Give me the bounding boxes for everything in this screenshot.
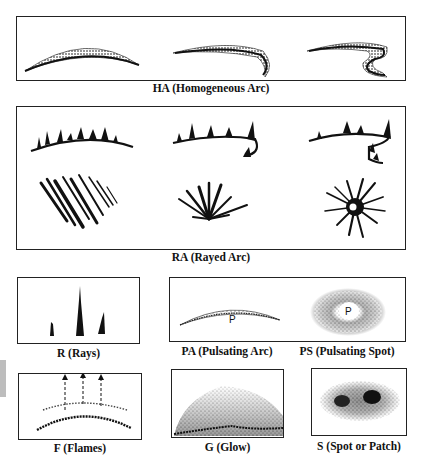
label-pulsating-arc: PA (Pulsating Arc) bbox=[172, 345, 282, 357]
rayed-arc-illustrations bbox=[17, 107, 407, 251]
pulsating-spot-marker: P bbox=[345, 306, 352, 317]
label-glow: G (Glow) bbox=[171, 441, 284, 453]
panel-rays bbox=[17, 277, 140, 344]
panel-spot-or-patch bbox=[311, 368, 407, 436]
glow-illustration bbox=[172, 370, 285, 439]
page-edge-tab bbox=[0, 360, 6, 397]
panel-homogeneous-arc bbox=[16, 16, 406, 81]
pulsating-illustrations: P P bbox=[170, 278, 407, 343]
spot-patch-illustration bbox=[312, 369, 408, 437]
label-flames: F (Flames) bbox=[18, 442, 142, 454]
flames-illustration bbox=[19, 374, 143, 441]
label-rayed-arc: RA (Rayed Arc) bbox=[16, 251, 406, 263]
panel-rayed-arc bbox=[16, 106, 406, 250]
rays-illustration bbox=[18, 278, 141, 345]
label-spot-or-patch: S (Spot or Patch) bbox=[306, 440, 412, 452]
label-rays: R (Rays) bbox=[17, 347, 140, 359]
pulsating-arc-marker: P bbox=[229, 314, 236, 325]
label-homogeneous-arc: HA (Homogeneous Arc) bbox=[16, 82, 406, 94]
panel-flames bbox=[18, 373, 142, 440]
homogeneous-arc-illustrations bbox=[17, 17, 407, 82]
panel-pulsating: P P bbox=[169, 277, 406, 342]
label-pulsating-spot: PS (Pulsating Spot) bbox=[286, 345, 408, 357]
panel-glow bbox=[171, 369, 284, 438]
